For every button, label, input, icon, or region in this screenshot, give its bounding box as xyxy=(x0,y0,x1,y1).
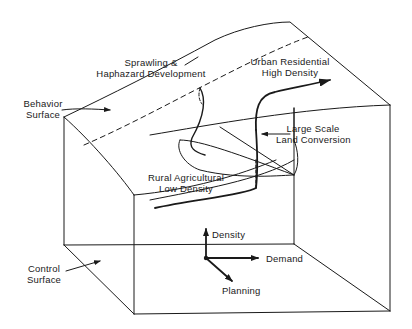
fold-inner-line xyxy=(180,140,294,175)
label-line: Haphazard Development xyxy=(96,68,206,79)
surface-right-upper-edge xyxy=(150,105,390,135)
axis-origin xyxy=(204,256,208,260)
label-rural: Rural Agricultural Low Density xyxy=(140,172,232,194)
fold-ellipse xyxy=(179,140,298,176)
label-urban: Urban Residential High Density xyxy=(246,56,334,78)
behavior-surface-leader xyxy=(62,109,110,110)
axis-label-planning: Planning xyxy=(222,285,261,296)
label-line: Land Conversion xyxy=(276,134,350,145)
label-line: Large Scale xyxy=(276,123,350,134)
box-back-diagonal xyxy=(294,244,390,311)
axis-label-density: Density xyxy=(212,229,245,240)
box-front-bottom-edge xyxy=(134,311,390,314)
label-sprawling: Sprawling & Haphazard Development xyxy=(96,57,206,79)
label-large-scale: Large Scale Land Conversion xyxy=(276,123,350,145)
axis-label-demand: Demand xyxy=(266,253,303,264)
s-curve-fold-left xyxy=(191,88,205,155)
control-back-edge xyxy=(64,244,294,245)
label-line: Control xyxy=(24,263,64,274)
label-line: Surface xyxy=(18,109,68,120)
label-line: Behavior xyxy=(18,98,68,109)
label-line: Rural Agricultural xyxy=(140,172,232,183)
label-line: Urban Residential xyxy=(246,56,334,67)
label-line: Surface xyxy=(24,274,64,285)
label-behavior-surface: Behavior Surface xyxy=(18,98,68,120)
cusp-catastrophe-diagram: Behavior Surface Sprawling & Haphazard D… xyxy=(0,0,412,329)
box-bottom-left-diagonal xyxy=(64,245,134,314)
label-line: Low Density xyxy=(140,183,232,194)
axis-planning xyxy=(206,258,232,281)
surface-left-edge xyxy=(64,117,134,195)
label-line: Sprawling & xyxy=(96,57,206,68)
control-surface-leader xyxy=(66,261,100,271)
label-control-surface: Control Surface xyxy=(24,263,64,285)
label-line: High Density xyxy=(246,67,334,78)
